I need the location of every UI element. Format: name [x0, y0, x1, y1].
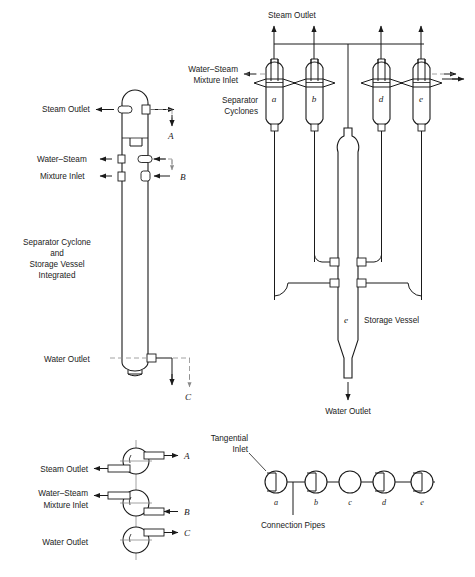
tangential-inlet-label-line1: Tangential	[211, 434, 249, 443]
cyclone-label-e: e	[419, 94, 423, 104]
right-elevation-group: Steam Outlet a	[188, 11, 464, 416]
section-view-label-a: A	[183, 451, 190, 461]
storage-vessel-label: Storage Vessel	[364, 316, 419, 325]
connection-pipes-label: Connection Pipes	[261, 521, 325, 530]
technical-diagram: A B C Steam Outlet Water–Steam Mixture I…	[0, 0, 475, 577]
plan-circle-label-a: a	[274, 498, 278, 507]
separator-cyclones-label-line1: Separator	[222, 96, 258, 105]
separator-cyclone-schematic: A B C Steam Outlet Water–Steam Mixture I…	[0, 0, 475, 577]
section-view-label-b: B	[184, 507, 190, 517]
cyclone-label-b: b	[312, 94, 317, 104]
left-elevation-caption: Separator Cyclone and Storage Vessel Int…	[23, 238, 91, 280]
caption-line-3: Storage Vessel	[29, 260, 84, 269]
right-elevation-mixture-inlet-label-line2: Mixture Inlet	[193, 76, 238, 85]
tangential-inlet-label-line2: Inlet	[233, 445, 249, 454]
section-view-label-c: C	[184, 528, 191, 538]
caption-line-2: and	[50, 249, 64, 258]
tangential-inlet-callout: Tangential Inlet	[211, 434, 266, 471]
plan-circle-label-d: d	[382, 498, 387, 507]
section-label-c: C	[185, 392, 192, 402]
left-elevation-steam-outlet-label: Steam Outlet	[42, 105, 91, 114]
plan-circle-a: a	[265, 471, 287, 507]
steam-header-manifold: Steam Outlet	[268, 11, 424, 126]
left-elevation-mixture-inlet-label: Mixture Inlet	[40, 172, 85, 181]
plan-circle-label-e: e	[420, 498, 424, 507]
section-b-mixture-inlet-label: Mixture Inlet	[43, 501, 88, 510]
plan-view-group: a b c d e Tangential Inlet	[211, 434, 435, 530]
left-vessel-body	[122, 90, 148, 376]
right-elevation-mixture-inlet-label-line1: Water–Steam	[188, 65, 238, 74]
separator-cyclone-d: d	[361, 48, 402, 262]
caption-line-4: Integrated	[39, 271, 76, 280]
plan-circle-label-c: c	[348, 498, 352, 507]
section-view-b: B Water–Steam Mixture Inlet	[38, 489, 190, 517]
separator-cyclone-b: b	[294, 48, 335, 262]
section-c-water-outlet-label: Water Outlet	[42, 538, 88, 547]
cyclone-label-d: d	[379, 94, 384, 104]
left-elevation-water-outlet-label: Water Outlet	[44, 355, 90, 364]
separator-cyclone-e: e	[401, 48, 464, 300]
storage-vessel-ident: e	[344, 315, 348, 325]
plan-circle-label-b: b	[314, 498, 318, 507]
separator-cyclone-a: a	[244, 48, 295, 300]
section-a-steam-outlet-label: Steam Outlet	[40, 465, 89, 474]
left-elevation-group: A B C Steam Outlet Water–Steam Mixture I…	[23, 90, 192, 402]
section-label-b: B	[180, 172, 186, 182]
caption-line-1: Separator Cyclone	[23, 238, 91, 247]
section-label-a: A	[167, 131, 174, 141]
right-elevation-water-outlet-label: Water Outlet	[325, 407, 371, 416]
section-mark-b-left-elevation: B	[172, 159, 186, 182]
plan-circle-c: c	[339, 471, 361, 507]
section-b-water-steam-label: Water–Steam	[38, 489, 88, 498]
plan-circle-b: b	[305, 471, 327, 507]
right-elevation-steam-outlet-label: Steam Outlet	[268, 11, 317, 20]
separator-cyclones-label-line2: Cyclones	[224, 107, 258, 116]
cyclone-label-a: a	[272, 94, 277, 104]
storage-vessel: e Storage Vessel Water Outlet	[325, 126, 419, 416]
plan-circle-d: d	[373, 471, 395, 507]
left-section-views-group: A Steam Outlet B Water–Steam Mixture Inl…	[38, 440, 191, 560]
section-view-c: C Water Outlet	[42, 527, 191, 553]
section-view-a: A Steam Outlet	[40, 448, 190, 474]
section-mark-a-left-elevation: A	[167, 110, 174, 142]
left-elevation-water-steam-label: Water–Steam	[37, 155, 87, 164]
plan-circle-e: e	[411, 471, 433, 507]
